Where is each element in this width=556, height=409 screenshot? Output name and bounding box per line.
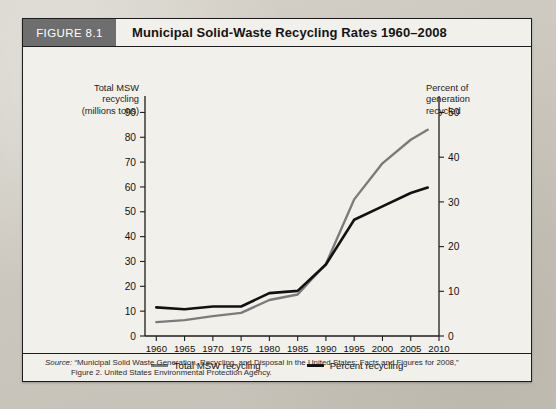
source-note: Source: “Municipal Solid Waste Generatio… [23, 353, 531, 381]
left-axis-tick-label: 20 [125, 281, 137, 292]
left-axis-tick-label: 70 [125, 157, 137, 168]
chart-plot-area: Total MSW recycling (millions tons) Perc… [23, 47, 531, 381]
source-line2: Figure 2. United States Environmental Pr… [45, 368, 517, 378]
source-label: Source: [45, 358, 72, 367]
left-axis-tick-label: 10 [125, 306, 137, 317]
series-line [156, 188, 427, 310]
right-axis-tick-label: 0 [448, 331, 454, 342]
right-axis-tick-label: 20 [448, 241, 460, 252]
left-axis-tick-label: 50 [125, 206, 137, 217]
right-axis-tick-label: 30 [448, 197, 460, 208]
right-axis-tick-label: 40 [448, 152, 460, 163]
right-axis-tick-label: 10 [448, 286, 460, 297]
left-axis-tick-label: 80 [125, 132, 137, 143]
series-line [156, 130, 427, 322]
left-axis-tick-label: 30 [125, 256, 137, 267]
page-background: FIGURE 8.1 Municipal Solid-Waste Recycli… [0, 0, 556, 409]
right-axis-tick-label: 50 [448, 107, 460, 118]
figure-header: FIGURE 8.1 Municipal Solid-Waste Recycli… [23, 19, 531, 47]
figure-box: FIGURE 8.1 Municipal Solid-Waste Recycli… [22, 18, 532, 382]
chart-svg: 0102030405060708090010203040501960196519… [23, 47, 531, 359]
left-axis-tick-label: 60 [125, 182, 137, 193]
left-axis-tick-label: 40 [125, 231, 137, 242]
left-axis-tick-label: 0 [130, 331, 136, 342]
figure-number-tag: FIGURE 8.1 [23, 19, 116, 46]
left-axis-tick-label: 90 [125, 107, 137, 118]
source-line1: “Municipal Solid Waste Generation, Recyc… [74, 358, 458, 367]
figure-title: Municipal Solid-Waste Recycling Rates 19… [116, 19, 531, 46]
